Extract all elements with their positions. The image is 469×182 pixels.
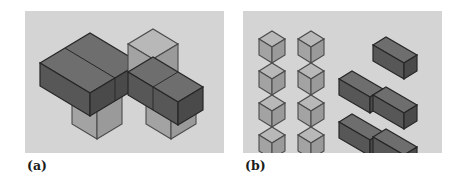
light-cube xyxy=(298,127,324,153)
panel-a-illustration xyxy=(25,11,224,153)
light-cube xyxy=(298,63,324,95)
panel-b-caption: (b) xyxy=(245,160,266,173)
panel-a xyxy=(25,11,224,153)
dark-bar xyxy=(373,87,417,129)
dark-bar-group xyxy=(339,37,417,153)
light-cube xyxy=(259,63,285,95)
light-cube xyxy=(259,31,285,63)
figure-root: (a) xyxy=(0,0,469,182)
light-cube-group xyxy=(259,31,324,153)
light-cube xyxy=(298,31,324,63)
dark-bar xyxy=(373,129,417,153)
light-cube xyxy=(259,95,285,127)
light-cube xyxy=(298,95,324,127)
light-cube xyxy=(259,127,285,153)
panel-a-caption: (a) xyxy=(27,160,47,173)
dark-bar-middle xyxy=(128,57,203,125)
panel-b-illustration xyxy=(243,11,442,153)
panel-b xyxy=(243,11,442,153)
assembly-right xyxy=(128,29,203,139)
dark-bar-top xyxy=(40,33,140,116)
assembly-left xyxy=(40,33,140,139)
dark-bar xyxy=(373,37,417,79)
